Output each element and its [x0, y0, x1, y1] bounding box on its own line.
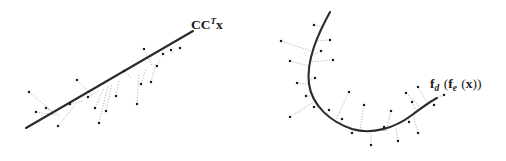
data-point: [351, 132, 353, 134]
residual-segment: [314, 25, 322, 27]
data-point: [280, 40, 282, 42]
data-points-linear: [28, 47, 181, 127]
data-point: [162, 53, 164, 55]
data-point: [314, 77, 316, 79]
data-point: [320, 50, 322, 52]
data-point: [313, 106, 315, 108]
data-point: [87, 96, 89, 98]
residual-segment: [77, 80, 92, 95]
data-point: [45, 107, 47, 109]
data-point: [363, 104, 365, 106]
residual-segment: [413, 114, 418, 133]
data-point: [28, 91, 30, 93]
data-point: [433, 104, 435, 106]
residual-segment: [137, 74, 139, 104]
panel-linear-projection: CCTx: [26, 16, 223, 128]
residual-segment: [29, 92, 54, 113]
data-point: [105, 110, 107, 112]
data-point: [408, 121, 410, 123]
data-point: [136, 103, 138, 105]
residual-segment: [141, 69, 146, 84]
data-point: [329, 39, 331, 41]
data-point: [341, 118, 343, 120]
data-point: [417, 132, 419, 134]
panel-nonlinear-manifold: fd (fe (x)): [280, 12, 482, 146]
data-point: [115, 95, 117, 97]
figure-root: CCTx fd (fe (x)): [0, 0, 506, 161]
data-point: [332, 59, 334, 61]
data-point: [348, 91, 350, 93]
residual-segment: [99, 86, 108, 123]
data-point: [383, 126, 385, 128]
residual-segment: [95, 88, 104, 108]
label-fd-fe-x: fd (fe (x)): [430, 76, 481, 93]
residual-segment: [290, 102, 314, 117]
data-point: [69, 103, 71, 105]
data-point: [305, 95, 307, 97]
residual-segment: [412, 102, 416, 110]
data-point: [405, 92, 407, 94]
data-point: [328, 109, 330, 111]
data-point: [170, 49, 172, 51]
residual-segment: [290, 61, 309, 66]
data-point: [98, 122, 100, 124]
residual-segment: [297, 83, 309, 84]
data-point: [411, 101, 413, 103]
data-point: [296, 82, 298, 84]
data-point: [156, 65, 158, 67]
data-point: [289, 116, 291, 118]
residual-segment: [116, 80, 119, 96]
residual-segment: [106, 84, 112, 111]
residual-segment: [336, 92, 349, 120]
residual-segment: [360, 105, 364, 131]
data-points-nonlinear: [280, 24, 445, 146]
data-point: [313, 24, 315, 26]
data-point: [57, 125, 59, 127]
residual-segment: [310, 60, 333, 62]
residual-segment: [418, 87, 427, 102]
data-point: [397, 140, 399, 142]
linear-subspace-line: [26, 31, 193, 128]
data-point: [289, 60, 291, 62]
figure-canvas: CCTx fd (fe (x)): [0, 0, 506, 161]
residual-links-linear: [29, 48, 181, 126]
data-point: [179, 47, 181, 49]
data-point: [443, 94, 445, 96]
data-point: [35, 111, 37, 113]
data-point: [390, 110, 392, 112]
data-point: [417, 86, 419, 88]
residual-segment: [151, 63, 156, 82]
data-point: [123, 70, 125, 72]
residual-links-nonlinear: [281, 25, 444, 145]
data-point: [150, 81, 152, 83]
residual-segment: [281, 41, 311, 51]
data-point: [140, 83, 142, 85]
data-point: [94, 107, 96, 109]
data-point: [76, 79, 78, 81]
data-point: [370, 144, 372, 146]
label-cct-x: CCTx: [191, 16, 223, 32]
data-point: [143, 48, 145, 50]
residual-segment: [396, 128, 398, 141]
